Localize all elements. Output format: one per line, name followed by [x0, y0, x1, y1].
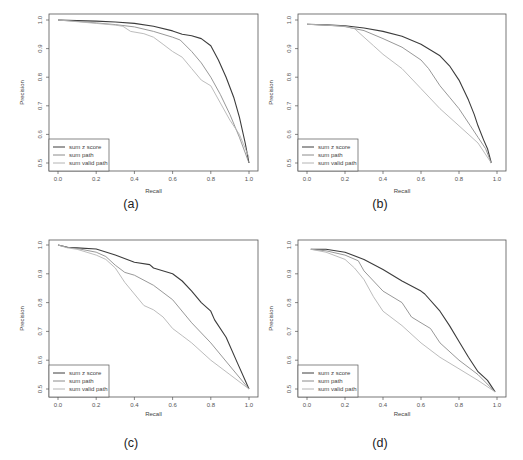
y-tick-label: 0.8 [286, 298, 292, 307]
y-tick-label: 0.6 [37, 355, 43, 364]
x-tick-label: 0.0 [303, 176, 312, 182]
pr-curve-chart-c: 0.00.20.40.60.81.00.50.60.70.80.91.0Reca… [0, 226, 262, 456]
x-tick-label: 1.0 [493, 176, 502, 182]
legend-entry: sum valid path [318, 386, 357, 392]
y-tick-label: 0.6 [286, 130, 292, 139]
x-axis-title: Recall [394, 188, 411, 194]
y-tick-label: 0.9 [286, 269, 292, 278]
x-tick-label: 0.4 [130, 402, 139, 408]
legend-entry: sum z score [318, 144, 351, 150]
y-tick-label: 0.5 [37, 384, 43, 393]
x-tick-label: 0.4 [130, 176, 139, 182]
x-tick-label: 0.0 [303, 402, 312, 408]
x-tick-label: 0.6 [417, 402, 426, 408]
y-axis-title: Precision [268, 306, 274, 331]
y-tick-label: 0.6 [37, 130, 43, 139]
legend-entry: sum z score [318, 370, 351, 376]
y-tick-label: 1.0 [286, 240, 292, 249]
x-tick-label: 0.8 [207, 402, 216, 408]
x-tick-label: 0.2 [341, 402, 350, 408]
pr-curve-chart-b: 0.00.20.40.60.81.00.50.60.70.80.91.0Reca… [249, 0, 511, 230]
panel-caption-d: (d) [249, 436, 511, 450]
y-tick-label: 0.8 [37, 72, 43, 81]
x-tick-label: 1.0 [493, 402, 502, 408]
chart-panel-d: 0.00.20.40.60.81.00.50.60.70.80.91.0Reca… [249, 226, 511, 456]
panel-caption-a: (a) [0, 197, 262, 211]
legend-entry: sum path [318, 378, 343, 384]
y-tick-label: 1.0 [286, 15, 292, 24]
y-axis-title: Precision [19, 306, 25, 331]
x-tick-label: 0.4 [379, 176, 388, 182]
x-tick-label: 0.2 [341, 176, 350, 182]
x-tick-label: 0.8 [455, 176, 464, 182]
y-tick-label: 0.5 [286, 158, 292, 167]
x-tick-label: 0.6 [168, 402, 177, 408]
chart-panel-a: 0.00.20.40.60.81.00.50.60.70.80.91.0Reca… [0, 0, 262, 230]
panel-caption-b: (b) [249, 197, 511, 211]
x-tick-label: 0.8 [455, 402, 464, 408]
legend: sum z scoresum pathsum valid path [298, 139, 358, 171]
legend: sum z scoresum pathsum valid path [49, 365, 109, 397]
legend-entry: sum path [69, 378, 94, 384]
pr-curve-chart-d: 0.00.20.40.60.81.00.50.60.70.80.91.0Reca… [249, 226, 511, 456]
x-axis-title: Recall [394, 411, 411, 417]
y-tick-label: 1.0 [37, 15, 43, 24]
legend: sum z scoresum pathsum valid path [49, 139, 109, 171]
x-tick-label: 0.0 [54, 402, 63, 408]
legend-entry: sum path [318, 152, 343, 158]
y-tick-label: 0.9 [37, 269, 43, 278]
y-tick-label: 0.8 [37, 298, 43, 307]
y-tick-label: 0.5 [286, 384, 292, 393]
y-axis-title: Precision [268, 80, 274, 105]
panel-caption-c: (c) [0, 436, 262, 450]
y-tick-label: 0.7 [37, 101, 43, 110]
legend-entry: sum valid path [69, 160, 108, 166]
y-tick-label: 0.8 [286, 72, 292, 81]
x-tick-label: 0.6 [168, 176, 177, 182]
x-tick-label: 0.4 [379, 402, 388, 408]
x-tick-label: 0.8 [207, 176, 216, 182]
x-tick-label: 0.2 [92, 402, 101, 408]
legend-entry: sum valid path [318, 160, 357, 166]
y-tick-label: 0.7 [286, 327, 292, 336]
legend: sum z scoresum pathsum valid path [298, 365, 358, 397]
y-tick-label: 0.6 [286, 355, 292, 364]
y-tick-label: 0.7 [37, 327, 43, 336]
chart-panel-c: 0.00.20.40.60.81.00.50.60.70.80.91.0Reca… [0, 226, 262, 456]
legend-entry: sum z score [69, 144, 102, 150]
x-tick-label: 0.0 [54, 176, 63, 182]
legend-entry: sum z score [69, 370, 102, 376]
x-tick-label: 0.6 [417, 176, 426, 182]
legend-entry: sum path [69, 152, 94, 158]
y-tick-label: 0.7 [286, 101, 292, 110]
series-line-sum-valid-path [58, 20, 249, 157]
y-tick-label: 0.5 [37, 158, 43, 167]
x-axis-title: Recall [145, 411, 162, 417]
legend-entry: sum valid path [69, 386, 108, 392]
y-tick-label: 1.0 [37, 240, 43, 249]
y-tick-label: 0.9 [286, 44, 292, 53]
chart-panel-b: 0.00.20.40.60.81.00.50.60.70.80.91.0Reca… [249, 0, 511, 230]
y-axis-title: Precision [19, 80, 25, 105]
x-tick-label: 0.2 [92, 176, 101, 182]
pr-curve-chart-a: 0.00.20.40.60.81.00.50.60.70.80.91.0Reca… [0, 0, 262, 230]
x-axis-title: Recall [145, 188, 162, 194]
y-tick-label: 0.9 [37, 44, 43, 53]
